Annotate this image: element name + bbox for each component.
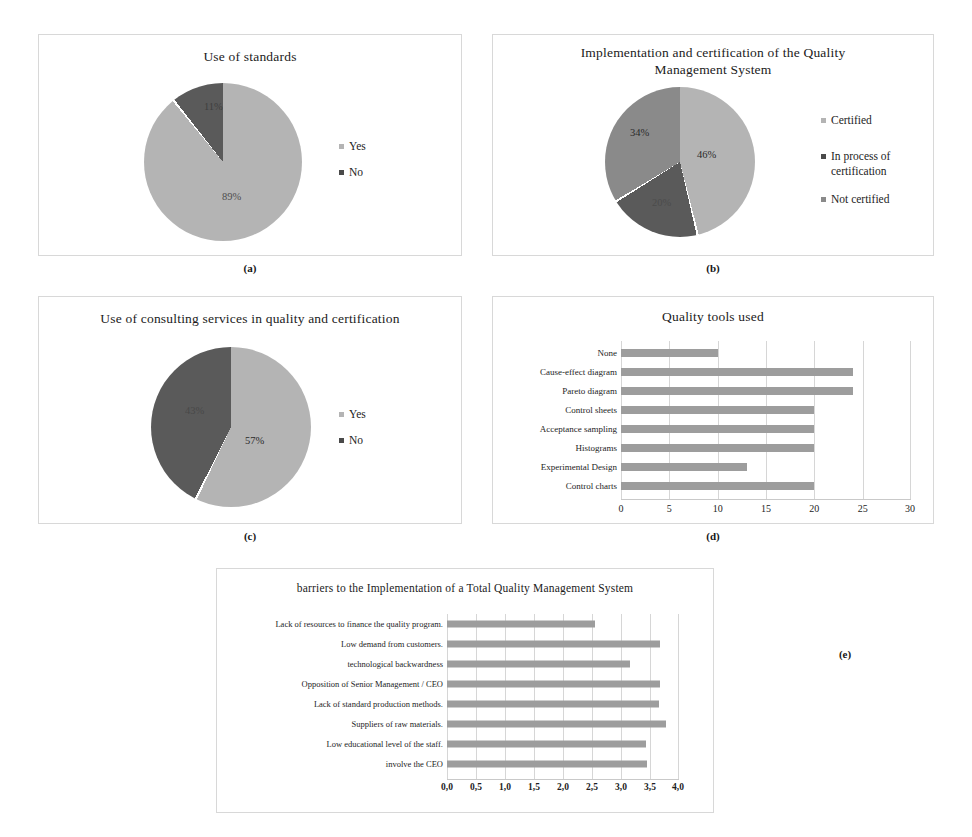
legend-label-certified: Certified — [831, 113, 872, 127]
chart-b-slice-label-notcertified: 34% — [630, 127, 649, 138]
chart-e-xtick-5: 2,5 — [586, 782, 598, 792]
chart-e-xtick-6: 3,0 — [615, 782, 627, 792]
chart-a-pie — [144, 83, 302, 241]
chart-d-axis-line — [621, 499, 911, 500]
chart-d-xtick-0: 0 — [619, 503, 624, 514]
gridline-e-3.0 — [621, 614, 622, 779]
gridline-10 — [718, 341, 719, 499]
chart-a-legend: Yes No — [339, 139, 366, 192]
legend-swatch-not-certified — [821, 197, 826, 202]
chart-e-xtick-1: 0,5 — [470, 782, 482, 792]
gridline-e-2.0 — [563, 614, 564, 779]
panel-c: Use of consulting services in quality an… — [38, 296, 462, 524]
caption-b: (b) — [492, 262, 934, 274]
gridline-25 — [863, 341, 864, 499]
chart-e-xtick-3: 1,5 — [528, 782, 540, 792]
caption-a: (a) — [38, 262, 462, 274]
chart-b-pie-wrap: 46% 20% 34% — [605, 87, 755, 237]
chart-d-cat-0: None — [598, 348, 618, 358]
chart-d-xtick-4: 20 — [809, 503, 819, 514]
caption-e: (e) — [830, 648, 860, 660]
gridline-e-0.0 — [447, 614, 448, 779]
chart-b-slice-label-inprocess: 20% — [652, 197, 671, 208]
chart-d-plot — [621, 341, 911, 499]
legend-swatch-yes — [339, 144, 344, 149]
legend-swatch-no — [339, 170, 344, 175]
chart-e-bar-4 — [447, 701, 659, 708]
legend-swatch-yes-c — [339, 412, 344, 417]
chart-c-legend: Yes No — [339, 407, 366, 460]
chart-e-xtick-0: 0,0 — [441, 782, 453, 792]
panel-a: Use of standards 11% 89% Yes No — [38, 34, 462, 256]
chart-e-cat-6: Low educational level of the staff. — [327, 739, 443, 749]
chart-d-cat-3: Control sheets — [565, 405, 617, 415]
gridline-e-1.5 — [534, 614, 535, 779]
gridline-e-1.0 — [505, 614, 506, 779]
panel-b: Implementation and certification of the … — [492, 34, 934, 256]
legend-label-no-c: No — [349, 433, 363, 447]
chart-d-bar-5 — [621, 444, 814, 452]
chart-e-bar-7 — [447, 761, 647, 768]
gridline-e-4.0 — [678, 614, 679, 779]
chart-d-xtick-3: 15 — [761, 503, 771, 514]
panel-e: barriers to the Implementation of a Tota… — [216, 568, 714, 813]
legend-item-in-process[interactable]: In process of certification — [821, 149, 890, 178]
caption-d: (d) — [492, 530, 934, 542]
chart-b-slice-label-certified: 46% — [697, 149, 716, 160]
legend-item-no-c[interactable]: No — [339, 433, 366, 447]
legend-item-yes-c[interactable]: Yes — [339, 407, 366, 421]
chart-d-bar-0 — [621, 349, 718, 357]
gridline-e-0.5 — [476, 614, 477, 779]
chart-b-title-line2: Management System — [493, 62, 933, 79]
chart-e-cat-5: Suppliers of raw materials. — [351, 719, 443, 729]
chart-d-bar-3 — [621, 406, 814, 414]
legend-item-no[interactable]: No — [339, 165, 366, 179]
legend-label-in-process: In process of certification — [831, 149, 890, 178]
chart-d-bar-7 — [621, 482, 814, 490]
gridline-0 — [621, 341, 622, 499]
chart-b-legend: Certified In process of certification No… — [821, 113, 890, 219]
chart-a-title: Use of standards — [39, 49, 461, 66]
legend-item-yes[interactable]: Yes — [339, 139, 366, 153]
chart-a-slice-label-yes: 89% — [222, 191, 241, 202]
chart-d-cat-7: Control charts — [566, 481, 617, 491]
chart-e-axis-line — [447, 779, 679, 780]
chart-c-title: Use of consulting services in quality an… — [39, 311, 461, 328]
legend-label-yes-c: Yes — [349, 407, 366, 421]
chart-d-xtick-1: 5 — [667, 503, 672, 514]
legend-item-certified[interactable]: Certified — [821, 113, 890, 127]
chart-c-slice-label-yes: 57% — [245, 435, 264, 446]
legend-swatch-certified — [821, 118, 826, 123]
chart-d-cat-2: Pareto diagram — [562, 386, 617, 396]
chart-a-pie-wrap: 11% 89% — [144, 83, 302, 241]
chart-e-bar-5 — [447, 721, 666, 728]
chart-d-cat-1: Cause-effect diagram — [540, 367, 617, 377]
gridline-30 — [910, 341, 911, 499]
gridline-e-2.5 — [592, 614, 593, 779]
gridline-5 — [669, 341, 670, 499]
panel-d: Quality tools used None Cause-effect dia… — [492, 296, 934, 524]
chart-c-slice-label-no: 43% — [185, 405, 204, 416]
chart-d-bar-4 — [621, 425, 814, 433]
chart-a-slice-label-no: 11% — [204, 101, 223, 112]
chart-e-cat-1: Low demand from customers. — [341, 639, 443, 649]
legend-label-not-certified: Not certified — [831, 192, 889, 206]
gridline-e-3.5 — [650, 614, 651, 779]
chart-e-bar-1 — [447, 641, 660, 648]
chart-d-xtick-5: 25 — [858, 503, 868, 514]
figure-sheet: Use of standards 11% 89% Yes No (a) Impl… — [0, 0, 972, 837]
chart-c-pie — [151, 347, 311, 507]
legend-item-not-certified[interactable]: Not certified — [821, 192, 890, 206]
chart-e-xtick-2: 1,0 — [499, 782, 511, 792]
chart-d-body: None Cause-effect diagram Pareto diagram… — [493, 297, 935, 525]
chart-d-bar-2 — [621, 387, 853, 395]
chart-d-category-labels: None Cause-effect diagram Pareto diagram… — [499, 297, 617, 525]
chart-d-bar-1 — [621, 368, 853, 376]
chart-b-title-line1: Implementation and certification of the … — [493, 45, 933, 62]
chart-d-cat-5: Histograms — [576, 443, 618, 453]
chart-b-pie — [605, 87, 755, 237]
gridline-20 — [814, 341, 815, 499]
chart-e-category-labels: Lack of resources to finance the quality… — [221, 569, 443, 814]
chart-e-bar-0 — [447, 621, 595, 628]
chart-e-xtick-8: 4,0 — [672, 782, 684, 792]
